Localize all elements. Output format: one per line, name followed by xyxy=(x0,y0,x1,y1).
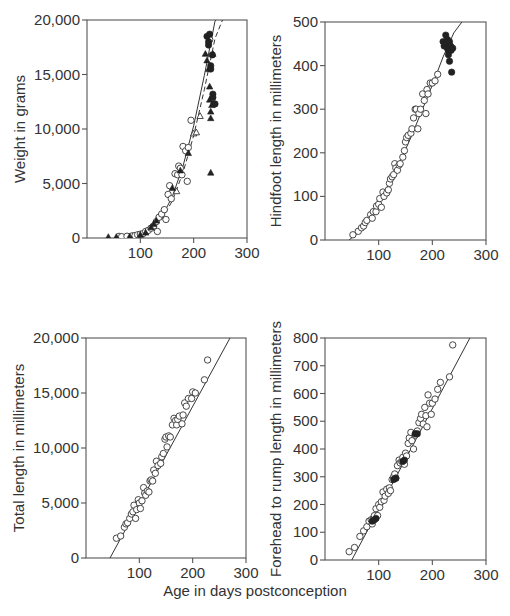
data-point-open-circle xyxy=(188,117,194,123)
y-tick-label: 700 xyxy=(293,357,318,374)
data-point-open-circle xyxy=(183,403,189,409)
data-point-open-circle xyxy=(180,412,186,418)
y-tick-label: 200 xyxy=(293,496,318,513)
y-tick-label: 20,000 xyxy=(34,11,80,28)
data-point-filled-triangle xyxy=(208,108,214,114)
data-point-open-circle xyxy=(425,392,431,398)
y-tick-label: 500 xyxy=(293,412,318,429)
y-tick-label: 0 xyxy=(310,551,318,568)
data-point-filled-circle xyxy=(448,69,454,75)
y-tick-label: 800 xyxy=(293,329,318,346)
data-point-open-circle xyxy=(400,154,406,160)
data-point-open-circle xyxy=(424,424,430,430)
data-point-open-circle xyxy=(435,71,441,77)
x-tick-label: 100 xyxy=(128,244,153,261)
data-point-open-circle xyxy=(435,386,441,392)
y-tick-label: 10,000 xyxy=(33,439,79,456)
y-tick-label: 600 xyxy=(293,385,318,402)
data-point-open-circle xyxy=(437,379,443,385)
y-tick-label: 400 xyxy=(293,440,318,457)
data-point-open-circle xyxy=(201,377,207,383)
data-point-open-circle xyxy=(450,342,456,348)
data-point-open-circle xyxy=(117,533,123,539)
data-point-open-circle xyxy=(163,216,169,222)
y-axis-title: Weight in grams xyxy=(11,75,28,183)
data-point-open-circle xyxy=(410,446,416,452)
plot-frame xyxy=(325,22,486,240)
data-point-open-circle xyxy=(397,161,403,167)
data-point-open-circle xyxy=(409,126,415,132)
plot-frame xyxy=(325,338,486,560)
y-tick-label: 15,000 xyxy=(33,384,79,401)
data-point-open-circle xyxy=(387,487,393,493)
y-tick-label: 20,000 xyxy=(33,329,79,346)
x-tick-label: 200 xyxy=(181,244,206,261)
data-point-open-circle xyxy=(351,544,357,550)
y-tick-label: 5,000 xyxy=(42,175,80,192)
data-point-filled-circle xyxy=(209,52,215,58)
data-point-open-circle xyxy=(192,390,198,396)
plot-frame xyxy=(87,20,247,238)
panel-forehead-rump: 0100200300400500600700800100200300Forehe… xyxy=(267,321,499,583)
y-axis-title: Forehead to rump length in millimeters xyxy=(267,321,284,577)
y-tick-label: 300 xyxy=(293,100,318,117)
data-point-filled-circle xyxy=(210,94,216,100)
y-tick-label: 0 xyxy=(71,549,79,566)
data-point-open-circle xyxy=(157,460,163,466)
x-tick-label: 100 xyxy=(366,246,391,263)
y-axis-title: Hindfoot length in millimeters xyxy=(267,35,284,228)
data-point-filled-triangle xyxy=(208,115,214,121)
panel-hindfoot: 0100200300400500100200300Hindfoot length… xyxy=(267,13,499,263)
data-point-open-circle xyxy=(385,187,391,193)
x-tick-label: 300 xyxy=(473,246,498,263)
data-point-filled-circle xyxy=(205,42,211,48)
data-point-open-circle xyxy=(184,178,190,184)
data-point-open-circle xyxy=(428,411,434,417)
y-tick-label: 10,000 xyxy=(34,120,80,137)
data-point-open-circle xyxy=(378,204,384,210)
x-tick-label: 300 xyxy=(473,566,498,583)
data-point-open-circle xyxy=(432,396,438,402)
y-tick-label: 0 xyxy=(310,231,318,248)
y-tick-label: 300 xyxy=(293,468,318,485)
data-point-filled-triangle xyxy=(206,83,212,89)
data-point-filled-circle xyxy=(373,515,379,521)
data-point-filled-triangle xyxy=(202,51,208,57)
data-point-open-circle xyxy=(168,196,174,202)
fit-curve xyxy=(119,20,216,238)
shared-x-axis-title: Age in days postconception xyxy=(0,582,510,599)
x-tick-label: 100 xyxy=(366,566,391,583)
data-point-filled-triangle xyxy=(204,57,210,63)
y-tick-label: 200 xyxy=(293,144,318,161)
x-tick-label: 200 xyxy=(420,246,445,263)
data-point-open-circle xyxy=(415,126,421,132)
data-point-open-circle xyxy=(401,147,407,153)
data-point-filled-circle xyxy=(212,101,218,107)
data-point-open-circle xyxy=(132,515,138,521)
fit-curve-dashed xyxy=(119,20,223,238)
x-tick-label: 200 xyxy=(420,566,445,583)
figure-canvas: 05,00010,00015,00020,000100200300Weight … xyxy=(0,0,510,616)
data-point-open-circle xyxy=(369,215,375,221)
data-point-open-circle xyxy=(432,78,438,84)
x-tick-label: 100 xyxy=(127,564,152,581)
data-point-filled-circle xyxy=(401,457,407,463)
data-point-open-circle xyxy=(410,115,416,121)
data-point-open-circle xyxy=(204,357,210,363)
x-tick-label: 300 xyxy=(233,564,258,581)
data-point-filled-circle xyxy=(208,66,214,72)
data-point-open-circle xyxy=(146,489,152,495)
data-point-open-circle xyxy=(346,548,352,554)
panel-total-length: 05,00010,00015,00020,000100200300Total l… xyxy=(10,329,259,581)
data-point-open-circle xyxy=(154,228,160,234)
data-point-open-circle xyxy=(425,91,431,97)
data-point-filled-circle xyxy=(206,31,212,37)
data-point-open-circle xyxy=(161,206,167,212)
y-tick-label: 500 xyxy=(293,13,318,30)
data-point-open-circle xyxy=(137,505,143,511)
data-point-open-circle xyxy=(160,450,166,456)
y-tick-label: 400 xyxy=(293,57,318,74)
y-tick-label: 100 xyxy=(293,523,318,540)
data-point-open-circle xyxy=(421,97,427,103)
data-point-open-circle xyxy=(179,421,185,427)
